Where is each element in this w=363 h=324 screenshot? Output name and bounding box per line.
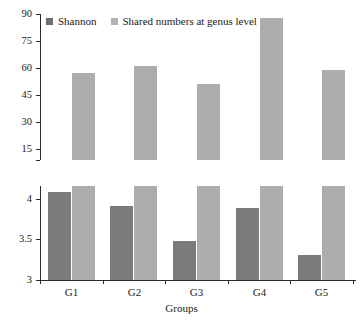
x-tick — [165, 280, 166, 284]
bar-shared-numbers-clipped-g5 — [322, 186, 345, 280]
x-tick-label-g4: G4 — [228, 287, 291, 298]
x-tick — [228, 280, 229, 284]
bar-shared-numbers-g5 — [322, 70, 345, 160]
upper-y-tick-label: 15 — [8, 144, 32, 155]
bar-shared-numbers-clipped-g2 — [134, 186, 157, 280]
x-tick-label-g3: G3 — [165, 287, 228, 298]
x-tick-label-g1: G1 — [40, 287, 103, 298]
lower-y-tick-label: 3.5 — [6, 234, 32, 245]
upper-y-tick-label: 90 — [8, 9, 32, 20]
x-tick-label-g5: G5 — [290, 287, 353, 298]
lower-y-tick — [36, 239, 40, 240]
bar-shared-numbers-clipped-g3 — [197, 186, 220, 280]
bar-shannon-g3 — [173, 241, 196, 280]
legend-label-shared-numbers: Shared numbers at genus level — [123, 16, 257, 27]
x-tick — [40, 280, 41, 284]
bar-shannon-g1 — [48, 192, 71, 280]
upper-y-tick — [36, 14, 40, 15]
x-tick — [290, 280, 291, 284]
x-tick — [353, 280, 354, 284]
upper-y-axis-base-tick — [36, 160, 40, 161]
x-tick-label-g2: G2 — [103, 287, 166, 298]
chart-figure: Groups Shannon Shared numbers at genus l… — [0, 0, 363, 324]
upper-y-tick — [36, 41, 40, 42]
upper-y-tick-label: 45 — [8, 90, 32, 101]
bar-shared-numbers-g4 — [260, 18, 283, 160]
legend-label-shannon: Shannon — [58, 16, 97, 27]
lower-y-tick-label: 4 — [6, 194, 32, 205]
bar-shared-numbers-g1 — [72, 73, 95, 160]
bar-shannon-g2 — [110, 206, 133, 280]
bar-shannon-g5 — [298, 255, 321, 280]
upper-y-tick — [36, 149, 40, 150]
bar-shared-numbers-clipped-g1 — [72, 186, 95, 280]
upper-y-tick-label: 60 — [8, 63, 32, 74]
upper-y-tick — [36, 122, 40, 123]
lower-y-tick-label: 3 — [6, 275, 32, 286]
legend-item-shannon[interactable]: Shannon — [46, 16, 97, 27]
legend-swatch-shannon — [46, 18, 53, 25]
legend-swatch-shared-numbers — [111, 18, 118, 25]
upper-y-tick — [36, 68, 40, 69]
upper-y-tick-label: 75 — [8, 36, 32, 47]
bar-shannon-g4 — [236, 208, 259, 280]
bar-shared-numbers-g2 — [134, 66, 157, 160]
upper-y-axis-line — [40, 14, 41, 160]
x-axis-line — [40, 280, 356, 281]
legend-item-shared-numbers[interactable]: Shared numbers at genus level — [111, 16, 257, 27]
lower-y-axis-line — [40, 186, 41, 280]
bar-shared-numbers-clipped-g4 — [260, 186, 283, 280]
x-tick — [103, 280, 104, 284]
legend: Shannon Shared numbers at genus level — [46, 16, 257, 27]
x-axis-title: Groups — [0, 303, 363, 314]
upper-y-tick-label: 30 — [8, 117, 32, 128]
upper-y-tick — [36, 95, 40, 96]
lower-y-tick — [36, 199, 40, 200]
bar-shared-numbers-g3 — [197, 84, 220, 160]
